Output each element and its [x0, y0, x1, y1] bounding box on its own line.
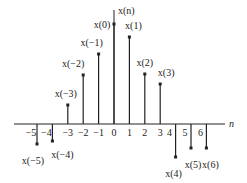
- stem-n4: [174, 124, 177, 159]
- stem-n-2: [82, 74, 85, 125]
- stem-marker: [190, 147, 193, 150]
- tick-label: 1: [127, 127, 132, 138]
- tick-label: 4: [167, 127, 172, 138]
- tick-label: 6: [198, 127, 203, 138]
- stem-marker: [128, 36, 131, 39]
- stem-n6: [205, 124, 208, 150]
- stem-marker: [97, 53, 100, 56]
- x-axis-label: n: [229, 118, 234, 129]
- stem-n-1: [97, 53, 100, 125]
- stem-n2: [143, 73, 146, 125]
- sample-label: x(0): [94, 19, 111, 31]
- stem-marker: [113, 23, 116, 26]
- stem-marker: [205, 147, 208, 150]
- sample-label: x(3): [158, 67, 175, 79]
- stem-marker: [143, 73, 146, 76]
- tick-label: −1: [93, 127, 104, 138]
- sample-label: x(6): [202, 159, 219, 171]
- sample-label: x(2): [136, 57, 153, 69]
- stem-marker: [36, 143, 39, 146]
- stem-plot: n x(n) −5−4−3−2−10123456 x(−5)x(−4)x(−3)…: [0, 0, 247, 183]
- tick-label: 3: [158, 127, 163, 138]
- tick-label: −2: [78, 127, 89, 138]
- stem-marker: [159, 83, 162, 86]
- tick-label: −3: [62, 127, 73, 138]
- stem-marker: [82, 74, 85, 77]
- sample-label: x(4): [165, 168, 182, 180]
- sample-label: x(−4): [51, 149, 73, 161]
- sample-label: x(−5): [22, 155, 44, 167]
- tick-label: 0: [112, 127, 117, 138]
- stem-n-3: [66, 104, 69, 125]
- stem-marker: [174, 156, 177, 159]
- stem-n3: [159, 83, 162, 125]
- stem-n5: [190, 124, 193, 150]
- stem-marker: [51, 140, 54, 143]
- sample-label: x(1): [125, 20, 142, 32]
- sample-label: x(5): [185, 159, 202, 171]
- stem-marker: [66, 104, 69, 107]
- tick-label: 5: [183, 127, 188, 138]
- tick-label: −5: [26, 127, 37, 138]
- sample-label: x(−3): [55, 88, 77, 100]
- sample-label: x(−1): [80, 37, 102, 49]
- stem-n0: [113, 23, 116, 125]
- tick-label: −4: [41, 127, 52, 138]
- y-axis-label: x(n): [118, 5, 135, 17]
- stem-n1: [128, 36, 131, 125]
- sample-labels: x(−5)x(−4)x(−3)x(−2)x(−1)x(0)x(1)x(2)x(3…: [22, 19, 219, 180]
- tick-label: 2: [142, 127, 147, 138]
- sample-label: x(−2): [62, 58, 84, 70]
